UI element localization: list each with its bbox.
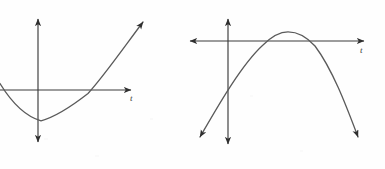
right-plot-downward-parabola-curve: [200, 32, 358, 137]
left-plot-upward-parabola-curve: [0, 22, 143, 121]
parabola-figure: t t: [0, 0, 385, 169]
figure-container: t t: [0, 0, 385, 169]
right-plot: t: [190, 19, 364, 144]
left-plot-t-axis-label: t: [130, 93, 133, 103]
paper-grain: [44, 95, 303, 157]
left-plot: t: [0, 19, 143, 142]
right-plot-t-axis-label: t: [360, 45, 363, 55]
